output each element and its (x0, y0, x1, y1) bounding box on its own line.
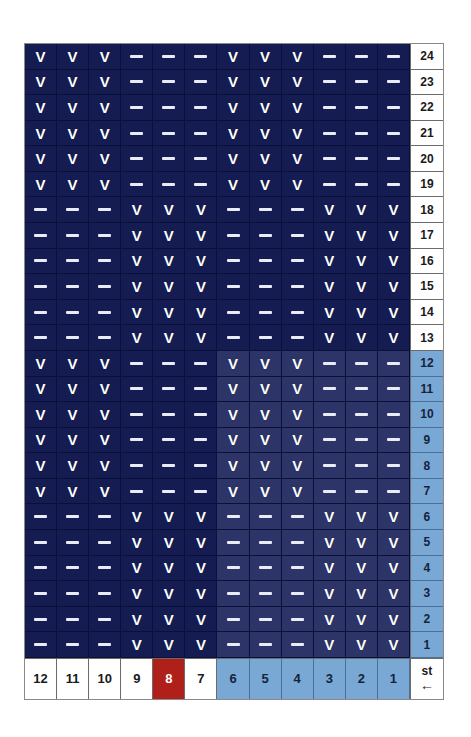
cell-mark-dash[interactable] (153, 453, 185, 479)
cell-mark-v[interactable] (378, 325, 410, 351)
cell-mark-v[interactable] (89, 453, 121, 479)
cell-mark-v[interactable] (57, 428, 89, 454)
cell-mark-dash[interactable] (314, 44, 346, 70)
cell-mark-dash[interactable] (314, 95, 346, 121)
cell-mark-dash[interactable] (57, 632, 89, 658)
cell-mark-v[interactable] (314, 223, 346, 249)
cell-mark-v[interactable] (121, 530, 153, 556)
cell-mark-v[interactable] (378, 632, 410, 658)
cell-mark-dash[interactable] (378, 428, 410, 454)
cell-mark-v[interactable] (25, 44, 57, 70)
cell-mark-dash[interactable] (121, 428, 153, 454)
cell-mark-v[interactable] (25, 377, 57, 403)
cell-mark-v[interactable] (250, 377, 282, 403)
cell-mark-dash[interactable] (57, 249, 89, 275)
cell-mark-v[interactable] (121, 556, 153, 582)
cell-mark-v[interactable] (282, 70, 314, 96)
cell-mark-v[interactable] (346, 223, 378, 249)
cell-mark-dash[interactable] (185, 146, 217, 172)
cell-mark-v[interactable] (25, 172, 57, 198)
cell-mark-v[interactable] (25, 121, 57, 147)
cell-mark-v[interactable] (217, 95, 249, 121)
cell-mark-dash[interactable] (121, 146, 153, 172)
cell-mark-dash[interactable] (25, 504, 57, 530)
cell-mark-v[interactable] (250, 172, 282, 198)
cell-mark-v[interactable] (378, 556, 410, 582)
cell-mark-v[interactable] (185, 300, 217, 326)
cell-mark-dash[interactable] (153, 428, 185, 454)
cell-mark-dash[interactable] (250, 581, 282, 607)
cell-mark-v[interactable] (121, 581, 153, 607)
cell-mark-dash[interactable] (153, 377, 185, 403)
cell-mark-dash[interactable] (57, 504, 89, 530)
cell-mark-dash[interactable] (121, 95, 153, 121)
cell-mark-v[interactable] (314, 197, 346, 223)
cell-mark-dash[interactable] (57, 581, 89, 607)
cell-mark-dash[interactable] (121, 70, 153, 96)
footer-cell[interactable]: 2 (346, 659, 378, 699)
cell-mark-v[interactable] (282, 121, 314, 147)
cell-mark-v[interactable] (57, 172, 89, 198)
cell-mark-v[interactable] (153, 556, 185, 582)
cell-mark-dash[interactable] (121, 351, 153, 377)
cell-mark-v[interactable] (314, 274, 346, 300)
cell-mark-v[interactable] (57, 70, 89, 96)
cell-mark-v[interactable] (89, 95, 121, 121)
cell-mark-dash[interactable] (153, 351, 185, 377)
cell-mark-v[interactable] (121, 249, 153, 275)
cell-mark-dash[interactable] (89, 581, 121, 607)
cell-mark-dash[interactable] (185, 453, 217, 479)
cell-mark-dash[interactable] (57, 325, 89, 351)
cell-mark-v[interactable] (185, 325, 217, 351)
cell-mark-dash[interactable] (153, 95, 185, 121)
cell-mark-dash[interactable] (346, 377, 378, 403)
cell-mark-dash[interactable] (346, 172, 378, 198)
cell-mark-dash[interactable] (282, 530, 314, 556)
cell-mark-v[interactable] (378, 223, 410, 249)
cell-mark-v[interactable] (217, 453, 249, 479)
footer-cell[interactable]: 3 (314, 659, 346, 699)
cell-mark-v[interactable] (153, 607, 185, 633)
cell-mark-v[interactable] (25, 351, 57, 377)
cell-mark-v[interactable] (346, 197, 378, 223)
cell-mark-dash[interactable] (282, 581, 314, 607)
cell-mark-v[interactable] (250, 428, 282, 454)
cell-mark-v[interactable] (89, 428, 121, 454)
cell-mark-v[interactable] (57, 402, 89, 428)
cell-mark-dash[interactable] (217, 274, 249, 300)
cell-mark-v[interactable] (185, 249, 217, 275)
cell-mark-dash[interactable] (282, 325, 314, 351)
cell-mark-dash[interactable] (185, 479, 217, 505)
cell-mark-dash[interactable] (185, 44, 217, 70)
cell-mark-v[interactable] (250, 70, 282, 96)
footer-cell[interactable]: 6 (217, 659, 249, 699)
cell-mark-dash[interactable] (282, 632, 314, 658)
cell-mark-dash[interactable] (346, 70, 378, 96)
footer-cell[interactable]: 11 (57, 659, 89, 699)
cell-mark-v[interactable] (89, 172, 121, 198)
cell-mark-dash[interactable] (314, 146, 346, 172)
cell-mark-v[interactable] (217, 428, 249, 454)
cell-mark-dash[interactable] (25, 556, 57, 582)
cell-mark-v[interactable] (346, 607, 378, 633)
cell-mark-v[interactable] (89, 121, 121, 147)
cell-mark-dash[interactable] (250, 607, 282, 633)
cell-mark-dash[interactable] (282, 556, 314, 582)
cell-mark-dash[interactable] (282, 274, 314, 300)
cell-mark-dash[interactable] (89, 325, 121, 351)
cell-mark-v[interactable] (185, 530, 217, 556)
cell-mark-v[interactable] (346, 556, 378, 582)
cell-mark-dash[interactable] (89, 197, 121, 223)
cell-mark-v[interactable] (282, 453, 314, 479)
cell-mark-dash[interactable] (378, 70, 410, 96)
cell-mark-dash[interactable] (153, 146, 185, 172)
cell-mark-v[interactable] (282, 172, 314, 198)
cell-mark-dash[interactable] (346, 479, 378, 505)
cell-mark-dash[interactable] (314, 453, 346, 479)
footer-cell-selected[interactable]: 8 (153, 659, 185, 699)
cell-mark-dash[interactable] (217, 632, 249, 658)
cell-mark-dash[interactable] (217, 581, 249, 607)
cell-mark-dash[interactable] (185, 172, 217, 198)
cell-mark-dash[interactable] (89, 249, 121, 275)
cell-mark-dash[interactable] (250, 632, 282, 658)
